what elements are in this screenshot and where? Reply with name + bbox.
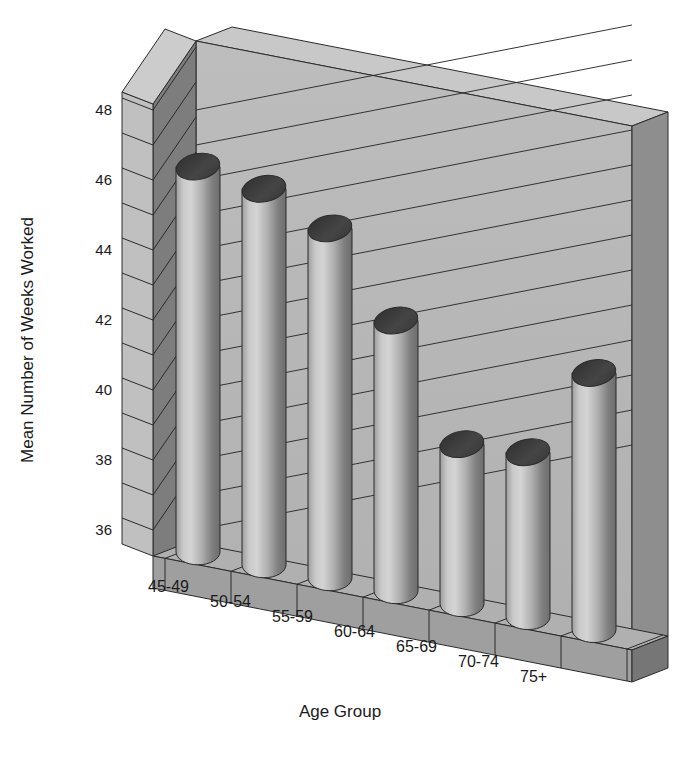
y-axis-slab-face xyxy=(122,92,153,556)
y-axis-tick-labels: 36384042444648 xyxy=(95,101,112,538)
x-axis-title: Age Group xyxy=(299,702,381,721)
bar-cylinder xyxy=(372,304,420,604)
bar-cylinder xyxy=(504,435,552,629)
x-tick-label: 55-59 xyxy=(272,608,313,625)
x-tick-label: 50-54 xyxy=(210,593,251,610)
wall-right-face xyxy=(632,112,668,650)
bar-cylinder xyxy=(174,150,222,565)
x-tick-label: 65-69 xyxy=(396,638,437,655)
y-tick-label: 38 xyxy=(95,451,112,468)
bar-body xyxy=(242,189,286,578)
x-tick-label: 45-49 xyxy=(148,578,189,595)
bar-body xyxy=(176,167,220,565)
bar-body xyxy=(374,321,418,604)
bar-cylinder xyxy=(240,172,288,578)
bar-cylinder xyxy=(570,356,618,643)
bar-body xyxy=(572,373,616,643)
y-tick-label: 48 xyxy=(95,101,112,118)
y-tick-label: 36 xyxy=(95,521,112,538)
y-tick-label: 40 xyxy=(95,381,112,398)
y-tick-label: 42 xyxy=(95,311,112,328)
y-tick-label: 46 xyxy=(95,171,112,188)
x-tick-label: 75+ xyxy=(520,668,547,685)
three-d-cylinder-bar-chart: 36384042444648 45-4950-5455-5960-6465-69… xyxy=(0,0,688,760)
x-tick-label: 70-74 xyxy=(458,653,499,670)
bar-cylinder xyxy=(306,211,354,590)
chart-canvas: 36384042444648 45-4950-5455-5960-6465-69… xyxy=(0,0,688,760)
bar-body xyxy=(506,452,550,629)
x-tick-label: 60-64 xyxy=(334,623,375,640)
bar-body xyxy=(440,444,484,616)
y-axis-title: Mean Number of Weeks Worked xyxy=(18,217,37,463)
y-tick-label: 44 xyxy=(95,241,112,258)
bar-body xyxy=(308,228,352,590)
bar-cylinder xyxy=(438,427,486,616)
